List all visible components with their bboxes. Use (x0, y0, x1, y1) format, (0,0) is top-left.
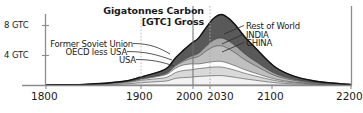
y-tick-label-8: 8 GTC (4, 20, 29, 30)
annotation-usa: USA (44, 55, 136, 65)
y-tick-label-4: 4 GTC (4, 50, 29, 60)
x-tick-label-2030: 2030 (207, 90, 234, 102)
chart-title-line-1: Gigatonnes Carbon (88, 5, 204, 16)
x-tick-label-2000: 2000 (176, 90, 203, 102)
chart-title: Gigatonnes Carbon [GTC] Gross (88, 5, 204, 27)
chart-title-line-2: [GTC] Gross (88, 16, 204, 27)
x-tick-label-2200: 2200 (336, 90, 363, 102)
leader-former-soviet-union (133, 44, 170, 55)
x-tick-label-2100: 2100 (257, 90, 284, 102)
x-tick-label-1900: 1900 (126, 90, 153, 102)
leader-usa (136, 60, 174, 67)
annotation-china: CHINA (246, 38, 272, 48)
x-tick-label-1800: 1800 (31, 90, 58, 102)
